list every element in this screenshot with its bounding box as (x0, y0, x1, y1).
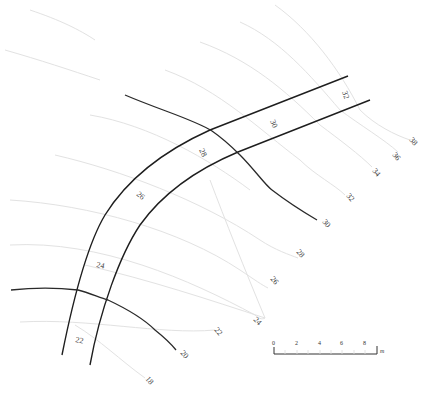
label-road-30: 30 (268, 118, 279, 129)
contour-34 (200, 42, 372, 167)
dark-contour-30 (125, 95, 317, 220)
label-road-32: 32 (340, 90, 351, 101)
label-36: 36 (390, 151, 402, 163)
scale-bar-line (274, 346, 377, 354)
scale-label-2: 2 (295, 340, 298, 346)
label-22: 22 (212, 326, 224, 338)
contour-26 (10, 200, 268, 288)
scale-label-8: 8 (363, 340, 366, 346)
scale-bar: 0 2 4 6 8 m (272, 340, 385, 354)
contour-38 (275, 5, 410, 140)
contour-24 (10, 245, 265, 319)
contour-cross (210, 180, 265, 318)
contour-18 (75, 325, 145, 378)
contour-22 (20, 321, 215, 331)
contour-30 (90, 115, 250, 190)
label-38: 38 (407, 136, 419, 148)
scale-label-6: 6 (340, 340, 343, 346)
scale-label-4: 4 (318, 340, 321, 346)
end-labels: 38 36 34 32 30 28 26 24 22 20 18 (143, 136, 419, 387)
dark-contours (11, 95, 317, 350)
label-road-22: 22 (75, 335, 85, 345)
label-18: 18 (143, 375, 155, 387)
label-20: 20 (178, 349, 190, 361)
faint-contours (5, 5, 410, 378)
label-road-26: 26 (135, 190, 147, 202)
contour-24b (85, 265, 265, 318)
label-26: 26 (268, 275, 280, 287)
label-34: 34 (370, 167, 382, 179)
contour-map: 32 30 28 26 24 22 38 36 34 32 30 28 26 2… (0, 0, 427, 401)
contour-upper-left-1 (5, 50, 100, 80)
contour-upper-left-2 (30, 10, 95, 40)
label-30: 30 (320, 218, 332, 230)
dark-contour-20 (11, 288, 176, 350)
scale-unit: m (380, 348, 385, 354)
scale-label-0: 0 (272, 340, 275, 346)
label-32: 32 (344, 192, 356, 204)
